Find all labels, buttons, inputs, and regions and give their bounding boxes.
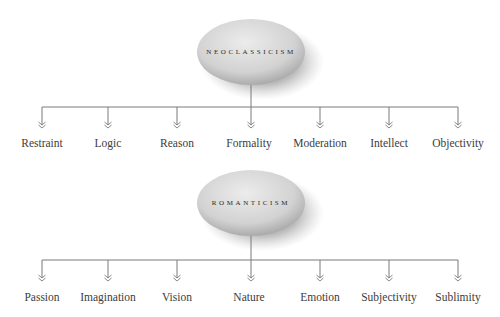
leaf-reason: Reason xyxy=(160,137,194,149)
leaf-formality: Formality xyxy=(226,137,271,149)
leaf-nature: Nature xyxy=(233,291,264,303)
leaf-objectivity: Objectivity xyxy=(432,137,484,149)
leaf-intellect: Intellect xyxy=(370,137,408,149)
leaf-imagination: Imagination xyxy=(80,291,136,303)
leaf-emotion: Emotion xyxy=(300,291,340,303)
leaf-passion: Passion xyxy=(24,291,59,303)
leaf-sublimity: Sublimity xyxy=(435,291,480,303)
leaf-moderation: Moderation xyxy=(293,137,347,149)
leaf-vision: Vision xyxy=(162,291,192,303)
neoclassicism-tree-svg xyxy=(0,0,500,155)
leaf-restraint: Restraint xyxy=(21,137,63,149)
leaf-subjectivity: Subjectivity xyxy=(361,291,417,303)
arrowhead-icons xyxy=(39,275,462,281)
neoclassicism-diagram: NEOCLASSICISM Restraint Logic Reason For… xyxy=(0,0,500,155)
arrowhead-icons xyxy=(39,122,462,128)
romanticism-diagram: ROMANTICISM Passion Imagination Vision N… xyxy=(0,155,500,317)
root-label-romanticism: ROMANTICISM xyxy=(197,199,305,207)
leaf-logic: Logic xyxy=(95,137,122,149)
root-label-neoclassicism: NEOCLASSICISM xyxy=(197,48,305,56)
